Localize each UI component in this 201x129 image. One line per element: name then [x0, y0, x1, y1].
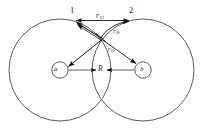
electron-1-label: 1	[70, 6, 74, 15]
electron-2-label: 2	[129, 6, 133, 15]
r12-label: r12	[96, 12, 104, 21]
r1b-label: r1b	[108, 46, 115, 53]
vector-to-electron-1-shadow	[78, 25, 102, 41]
internuclear-distance-label: R	[98, 65, 103, 73]
nucleus-b-label: b	[140, 66, 144, 73]
vector-to-nucleus-a	[69, 40, 103, 67]
r1b-sub: 1b	[111, 48, 115, 53]
figure-canvas: 1 2 r12 r2b r1b a b R	[0, 0, 201, 129]
r12-sub: 12	[99, 15, 104, 20]
vector-to-electron-1	[77, 23, 102, 39]
nucleus-a-label: a	[54, 66, 58, 73]
r2b-sub: 2b	[116, 30, 120, 35]
r2b-label: r2b	[113, 28, 120, 35]
